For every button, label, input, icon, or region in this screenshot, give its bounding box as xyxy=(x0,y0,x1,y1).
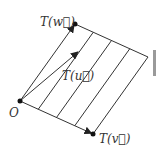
label-Tw: T(w⃗) xyxy=(40,15,75,29)
label-Tu: T(u⃗) xyxy=(62,69,95,83)
vector-Tw xyxy=(20,26,74,102)
origin-point xyxy=(18,99,23,104)
interior-line-3 xyxy=(75,49,130,126)
parallelogram-diagram: O T(w⃗) T(v⃗) T(u⃗) xyxy=(0,0,157,155)
label-Tv: T(v⃗) xyxy=(99,132,131,146)
Tv-point xyxy=(91,132,96,137)
edge-far-right xyxy=(93,57,148,134)
label-origin: O xyxy=(9,106,19,120)
edge-divider xyxy=(153,50,156,76)
